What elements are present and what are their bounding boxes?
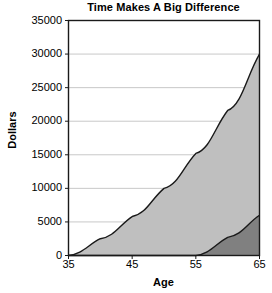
y-tick-label: 30000 xyxy=(6,48,62,59)
y-tick-label: 20000 xyxy=(6,115,62,126)
x-tick-label: 35 xyxy=(49,259,89,270)
y-tick-label: 5000 xyxy=(6,216,62,227)
y-tick-label: 15000 xyxy=(6,149,62,160)
x-tick-label: 55 xyxy=(176,259,216,270)
x-tick-label: 45 xyxy=(112,259,152,270)
y-tick-label: 35000 xyxy=(6,15,62,26)
y-tick-label: 10000 xyxy=(6,182,62,193)
y-tick-label: 25000 xyxy=(6,82,62,93)
chart-container: Time Makes A Big Difference Dollars Age … xyxy=(0,0,271,293)
x-tick-label: 65 xyxy=(240,259,272,270)
